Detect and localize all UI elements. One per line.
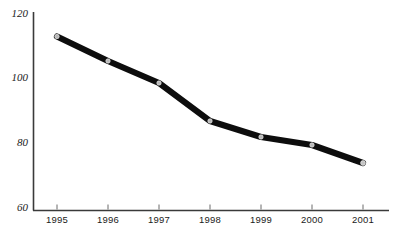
data-point-1996 [106, 59, 110, 63]
y-tick-label-60: 60 [17, 201, 29, 213]
x-tick-label-2001: 2001 [352, 214, 374, 225]
chart-canvas: 120 100 80 60 1995 1996 1997 1998 [0, 0, 401, 248]
y-tick-label-80: 80 [17, 136, 29, 148]
data-point-1999 [259, 135, 263, 139]
x-tick-label-1999: 1999 [250, 214, 272, 225]
data-point-1995 [55, 34, 59, 38]
line-chart: 120 100 80 60 1995 1996 1997 1998 [0, 0, 401, 248]
x-tick-label-1995: 1995 [46, 214, 68, 225]
y-tick-label-120: 120 [12, 7, 29, 19]
x-tick-label-1996: 1996 [97, 214, 119, 225]
x-tick-label-1998: 1998 [199, 214, 221, 225]
data-point-2001 [361, 161, 366, 166]
data-point-2000 [310, 143, 314, 147]
data-point-1997 [157, 81, 161, 85]
x-tick-label-1997: 1997 [148, 214, 170, 225]
data-point-1998 [208, 119, 212, 123]
x-tick-label-2000: 2000 [301, 214, 323, 225]
y-tick-label-100: 100 [12, 71, 29, 83]
